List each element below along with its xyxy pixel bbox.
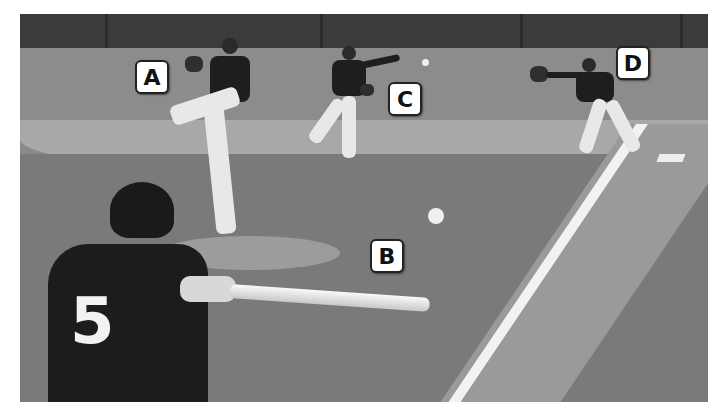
first-base [657,154,686,162]
jersey-number: 5 [70,284,115,358]
wall-post [320,14,323,48]
outfield-wall [20,14,708,48]
thrown-ball [422,59,429,66]
label-b: B [370,239,404,273]
infielder-glove [360,84,374,96]
first-baseman-jersey [576,72,614,102]
pitcher-glove [185,56,203,72]
wall-post [520,14,523,48]
infielder-leg [342,96,356,158]
batting-gloves [180,276,236,302]
label-c: C [388,82,422,116]
label-d: D [616,46,650,80]
batting-helmet [110,182,174,238]
pitched-ball [428,208,444,224]
wall-post [680,14,683,48]
pitcher-head [222,38,238,54]
label-a: A [135,60,169,94]
first-baseman-head [582,58,596,72]
infielder-head [342,46,356,60]
wall-post [105,14,108,48]
baseball-photo: 5 [20,14,708,402]
